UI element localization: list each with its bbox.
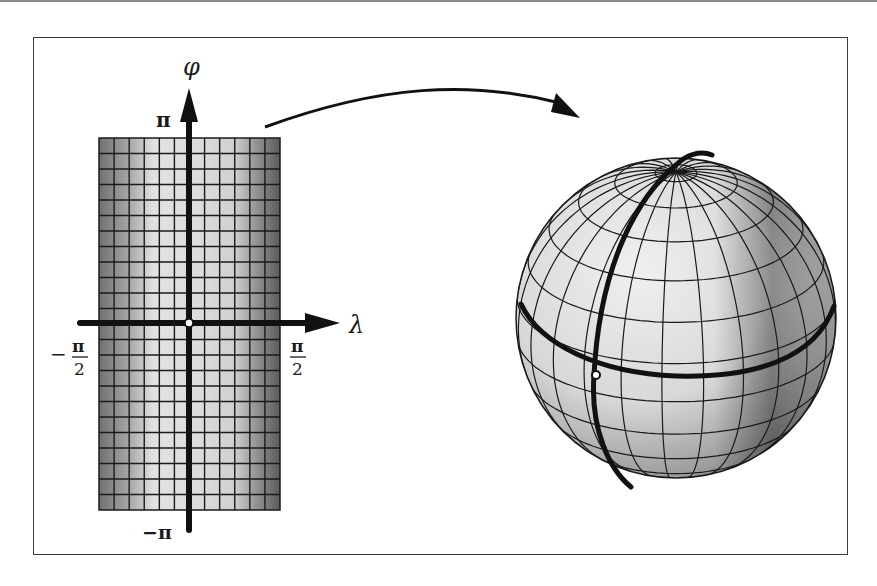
top-tick-label: π — [156, 108, 171, 132]
phi-label: φ — [183, 53, 200, 81]
sphere — [516, 153, 836, 487]
svg-text:2: 2 — [74, 359, 85, 379]
svg-text:π: π — [291, 336, 303, 356]
figure-canvas: φ π λ −π − π 2 π 2 — [0, 0, 877, 586]
mapping-arrow — [265, 89, 580, 127]
lambda-label: λ — [348, 311, 364, 339]
left-tick-fraction: − π 2 — [50, 336, 88, 379]
bottom-tick-label: −π — [142, 521, 172, 543]
sphere-origin-point — [592, 371, 600, 379]
right-tick-fraction: π 2 — [290, 336, 306, 379]
svg-text:−: − — [50, 342, 67, 366]
svg-text:2: 2 — [292, 359, 303, 379]
svg-text:π: π — [72, 336, 84, 356]
origin-point — [185, 319, 193, 327]
